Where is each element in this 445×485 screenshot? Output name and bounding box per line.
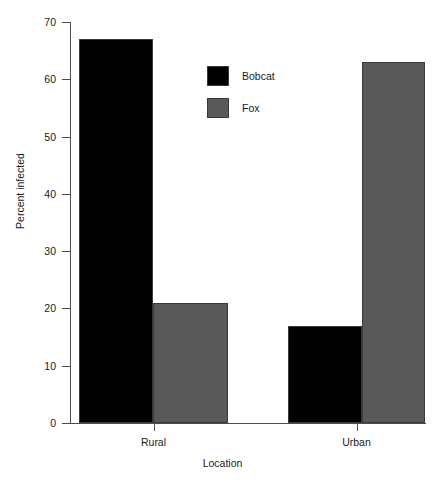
y-tick-60 xyxy=(62,79,70,80)
y-tick-label-40: 40 xyxy=(0,189,56,200)
legend-label-fox: Fox xyxy=(242,102,260,114)
y-tick-10 xyxy=(62,366,70,367)
y-tick-30 xyxy=(62,251,70,252)
bar-urban-bobcat xyxy=(288,326,362,423)
y-tick-40 xyxy=(62,194,70,195)
bar-rural-fox xyxy=(153,303,228,423)
legend: BobcatFox xyxy=(207,66,327,130)
y-axis-line xyxy=(70,22,71,424)
bar-chart: 010203040506070 Percent infected RuralUr… xyxy=(0,0,445,485)
legend-swatch-fox xyxy=(207,98,229,118)
bar-urban-fox xyxy=(362,62,425,423)
bar-rural-bobcat xyxy=(79,39,153,423)
y-tick-label-10: 10 xyxy=(0,360,56,371)
legend-item-bobcat: Bobcat xyxy=(207,66,327,98)
y-tick-label-20: 20 xyxy=(0,303,56,314)
x-tick-rural xyxy=(154,423,155,431)
y-tick-label-70: 70 xyxy=(0,17,56,28)
y-tick-label-50: 50 xyxy=(0,131,56,142)
legend-label-bobcat: Bobcat xyxy=(242,70,275,82)
x-axis-title: Location xyxy=(0,457,445,469)
y-axis-title: Percent infected xyxy=(14,111,26,271)
x-tick-urban xyxy=(357,423,358,431)
legend-swatch-bobcat xyxy=(207,66,229,86)
y-tick-20 xyxy=(62,308,70,309)
y-tick-70 xyxy=(62,22,70,23)
x-tick-label-urban: Urban xyxy=(342,436,371,448)
y-tick-label-30: 30 xyxy=(0,246,56,257)
x-axis-line xyxy=(70,423,426,424)
y-tick-label-0: 0 xyxy=(0,418,56,429)
x-tick-label-rural: Rural xyxy=(141,436,166,448)
y-tick-label-60: 60 xyxy=(0,74,56,85)
legend-item-fox: Fox xyxy=(207,98,327,130)
y-tick-50 xyxy=(62,137,70,138)
y-tick-0 xyxy=(62,423,70,424)
